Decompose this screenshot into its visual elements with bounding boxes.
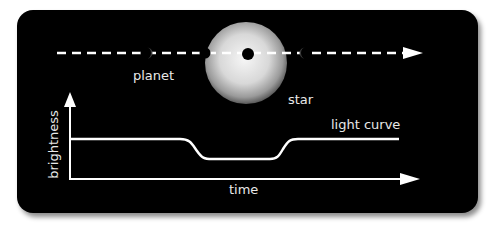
planet-mid-transit	[242, 48, 254, 60]
planet-before-transit	[141, 48, 153, 59]
arrow-right-icon	[403, 47, 423, 59]
x-axis-label: time	[229, 183, 258, 196]
star-label: star	[288, 93, 313, 106]
planet-ingress	[200, 48, 211, 59]
light-curve-label: light curve	[331, 118, 400, 131]
arrow-up-icon	[64, 92, 76, 107]
planet-label: planet	[133, 69, 174, 82]
arrow-right-icon	[400, 173, 420, 185]
y-axis-label: brightness	[47, 110, 60, 180]
planet-after-transit	[300, 48, 312, 59]
light-curve	[70, 139, 399, 159]
star	[205, 22, 287, 104]
